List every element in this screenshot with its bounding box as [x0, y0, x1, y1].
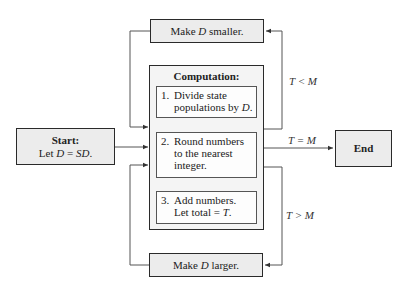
start-title: Start:: [52, 134, 80, 146]
step-2-box: 2. Round numbers to the nearest integer.: [156, 132, 257, 178]
step-3-box: 3. Add numbers. Let total = T.: [156, 191, 257, 224]
start-text: Let D = SD.: [39, 147, 92, 159]
edge-label-t-less-m: T < M: [289, 75, 317, 87]
computation-title: Computation:: [150, 70, 263, 83]
make-d-smaller-label: Make D smaller.: [170, 25, 243, 38]
edge-label-t-greater-m: T > M: [286, 209, 314, 221]
step-1-box: 1. Divide state populations by D.: [156, 86, 257, 118]
make-d-larger-label: Make D larger.: [173, 259, 239, 272]
make-d-smaller-box: Make D smaller.: [150, 19, 264, 43]
make-d-larger-box: Make D larger.: [149, 253, 263, 277]
start-box: Start: Let D = SD.: [16, 128, 115, 165]
edge-label-t-equals-m: T = M: [288, 134, 316, 146]
end-label: End: [354, 142, 374, 155]
end-box: End: [335, 130, 392, 167]
